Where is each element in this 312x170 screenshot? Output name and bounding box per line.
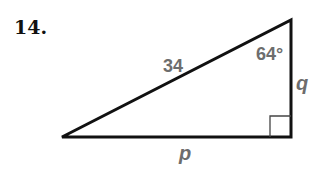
horizontal-leg-label: p — [178, 142, 191, 164]
angle-label: 64° — [256, 44, 283, 64]
triangle-outline — [62, 20, 291, 137]
right-triangle-diagram: 34 64° q p — [0, 0, 312, 170]
hypotenuse-label: 34 — [163, 56, 183, 76]
right-angle-marker — [270, 116, 291, 137]
vertical-leg-label: q — [296, 72, 308, 94]
